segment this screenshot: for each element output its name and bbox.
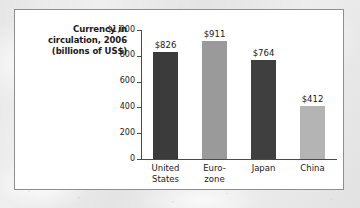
bar: $764 [251,60,276,159]
bar-value-label: $412 [302,94,324,104]
x-axis-category-label: China [288,163,337,174]
y-axis-tick-label: 0 [130,154,135,163]
x-axis-category-label: Euro- zone [190,163,239,184]
bar: $826 [153,52,178,159]
y-axis-line [141,30,142,159]
y-axis-tick-mark [137,30,141,31]
bar: $412 [300,106,325,159]
x-axis-category-label: United States [141,163,190,184]
bar-value-label: $764 [253,48,275,58]
y-axis-tick-label: 200 [120,128,135,137]
bar-value-label: $826 [155,40,177,50]
y-axis-tick-mark [137,133,141,134]
y-axis-tick-label: 800 [120,50,135,59]
y-axis-tick-mark [137,82,141,83]
y-axis-tick-mark [137,56,141,57]
bar-value-label: $911 [204,29,226,39]
x-axis-line [141,159,337,160]
y-axis-tick-label: 400 [120,102,135,111]
figure-page: Currency in circulation, 2006 (billions … [0,0,360,208]
y-axis-tick-mark [137,159,141,160]
y-axis-tick-label: 600 [120,76,135,85]
bar: $911 [202,41,227,159]
y-axis-tick-label: $1,000 [107,25,135,34]
plot-area: 0200400600800$1,000 $826$911$764$412 Uni… [141,30,337,159]
chart-panel: Currency in circulation, 2006 (billions … [14,9,344,190]
x-axis-category-label: Japan [239,163,288,174]
y-axis-tick-mark [137,107,141,108]
